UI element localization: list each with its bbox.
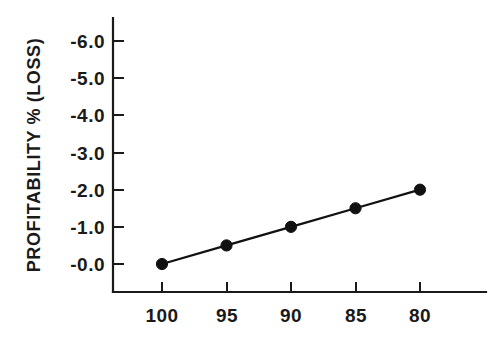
x-tick-label: 100	[145, 305, 178, 326]
data-point	[156, 258, 167, 269]
y-tick-label: -0.0	[70, 254, 105, 275]
axis-lines	[113, 18, 486, 292]
y-axis-tick-labels: -6.0 -5.0 -4.0 -3.0 -2.0 -1.0 -0.0	[70, 31, 105, 275]
y-tick-label: -4.0	[70, 105, 105, 126]
x-axis-tick-labels: 100 95 90 85 80	[145, 305, 431, 326]
data-point	[285, 221, 296, 232]
y-tick-label: -5.0	[70, 68, 105, 89]
data-point	[221, 240, 232, 251]
y-axis-title: PROFITABILITY % (LOSS)	[24, 38, 44, 273]
x-tick-label: 85	[345, 305, 367, 326]
data-point	[350, 203, 361, 214]
y-tick-label: -6.0	[70, 31, 105, 52]
y-axis-ticks	[113, 41, 124, 264]
data-series	[156, 184, 425, 270]
data-point	[414, 184, 425, 195]
profitability-line-chart: PROFITABILITY % (LOSS) -6.0 -5.0 -4.0 -3…	[0, 0, 504, 338]
chart-figure: PROFITABILITY % (LOSS) -6.0 -5.0 -4.0 -3…	[0, 0, 504, 338]
series-markers	[156, 184, 425, 270]
x-axis-ticks	[162, 282, 420, 292]
x-tick-label: 80	[409, 305, 431, 326]
x-tick-label: 95	[216, 305, 238, 326]
y-tick-label: -2.0	[70, 180, 105, 201]
y-tick-label: -3.0	[70, 143, 105, 164]
x-tick-label: 90	[280, 305, 302, 326]
y-tick-label: -1.0	[70, 217, 105, 238]
